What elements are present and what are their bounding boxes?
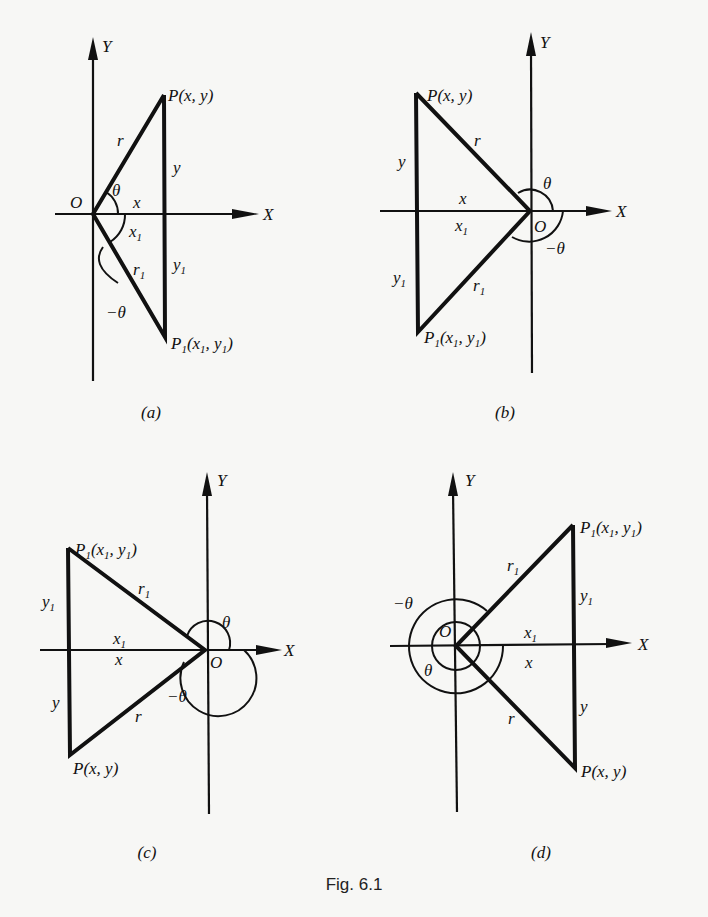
x1-label: x1 — [128, 222, 142, 243]
point-p-label: P(x, y) — [580, 762, 627, 781]
r1-label: r1 — [138, 579, 150, 600]
y-axis-arrowhead-icon — [88, 37, 98, 60]
y-label: y — [171, 158, 181, 177]
triangle — [456, 525, 575, 768]
r1-label: r1 — [507, 556, 519, 577]
y1-label: y1 — [171, 255, 186, 276]
x1-label: x1 — [112, 629, 126, 650]
neg-theta-label: −θ — [106, 303, 126, 322]
theta-label: θ — [222, 613, 230, 632]
x-axis-arrowhead-icon — [586, 206, 612, 216]
origin-label: O — [210, 653, 222, 672]
figure-caption: Fig. 6.1 — [326, 875, 383, 894]
r-label: r — [135, 707, 142, 726]
y1-label: y1 — [40, 592, 55, 613]
neg-theta-arc — [110, 214, 125, 242]
y-axis-arrowhead-icon — [202, 472, 212, 496]
r-label: r — [117, 131, 124, 150]
panel-a: Y X O P(x, y) r y θ x x1 r1 y1 −θ P1(x1,… — [55, 37, 274, 422]
y-axis — [453, 488, 457, 812]
origin-label: O — [534, 217, 546, 236]
x-axis-arrowhead-icon — [606, 638, 632, 648]
y-axis-label: Y — [102, 37, 113, 56]
x-label: x — [132, 193, 141, 212]
point-p-label: P(x, y) — [72, 759, 119, 778]
y1-label: y1 — [578, 586, 593, 607]
x-axis-label: X — [637, 635, 649, 654]
x-axis — [390, 644, 612, 646]
r1-label: r1 — [473, 276, 485, 297]
point-p1-label: P1(x1, y1) — [423, 328, 486, 349]
x-axis-arrowhead-icon — [256, 645, 282, 655]
y1-label: y1 — [391, 268, 406, 289]
y-axis-label: Y — [217, 471, 228, 490]
r-label: r — [474, 131, 481, 150]
y-label: y — [396, 152, 406, 171]
panel-caption: (a) — [141, 403, 161, 422]
y-axis-arrowhead-icon — [526, 32, 536, 56]
panel-caption: (d) — [531, 843, 551, 862]
point-p1-label: P1(x1, y1) — [74, 540, 137, 561]
triangle — [416, 93, 530, 332]
origin-label: O — [70, 193, 82, 212]
x-axis-arrowhead-icon — [232, 209, 259, 219]
triangle — [93, 95, 165, 337]
x-axis-label: X — [283, 641, 295, 660]
neg-theta-label: −θ — [393, 594, 413, 613]
y-label: y — [50, 693, 60, 712]
theta-label: θ — [543, 174, 551, 193]
panel-b: Y X P(x, y) r y θ x x1 O −θ y1 r1 P1(x1,… — [380, 32, 627, 422]
x-label: x — [458, 189, 467, 208]
neg-theta-label: −θ — [545, 239, 565, 258]
x1-label: x1 — [523, 623, 537, 644]
y-axis-label: Y — [465, 471, 476, 490]
x-axis-label: X — [615, 202, 627, 221]
panel-d: Y X P1(x1, y1) r1 y1 −θ O x1 x θ y r P(x… — [390, 471, 649, 862]
point-p-label: P(x, y) — [426, 86, 473, 105]
x-label: x — [524, 653, 533, 672]
y-axis-arrowhead-icon — [448, 472, 458, 496]
x1-label: x1 — [454, 216, 468, 237]
point-p1-label: P1(x1, y1) — [579, 518, 642, 539]
neg-theta-label: −θ — [167, 687, 187, 706]
panel-caption: (b) — [495, 403, 515, 422]
y-axis-label: Y — [540, 33, 551, 52]
x-axis-label: X — [262, 205, 274, 224]
point-p1-label: P1(x1, y1) — [170, 334, 233, 355]
point-p-label: P(x, y) — [167, 86, 214, 105]
theta-label: θ — [112, 181, 120, 200]
origin-label: O — [439, 622, 451, 641]
r1-label: r1 — [133, 260, 145, 281]
y-label: y — [578, 697, 588, 716]
r-label: r — [508, 709, 515, 728]
panel-caption: (c) — [138, 843, 157, 862]
panel-c: Y X P1(x1, y1) r1 y1 θ x1 x O −θ y r P(x… — [40, 471, 295, 862]
theta-label: θ — [424, 661, 432, 680]
x-label: x — [114, 650, 123, 669]
